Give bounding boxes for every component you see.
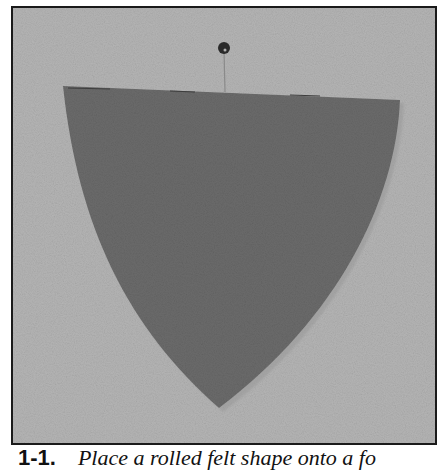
photo-frame bbox=[11, 6, 437, 445]
felt-photo bbox=[11, 6, 437, 445]
figure-caption: 1-1. Place a rolled felt shape onto a fo bbox=[18, 447, 376, 469]
pin-head-icon bbox=[218, 42, 230, 54]
caption-text: Place a rolled felt shape onto a fo bbox=[78, 445, 376, 470]
caption-number: 1-1. bbox=[18, 445, 56, 470]
